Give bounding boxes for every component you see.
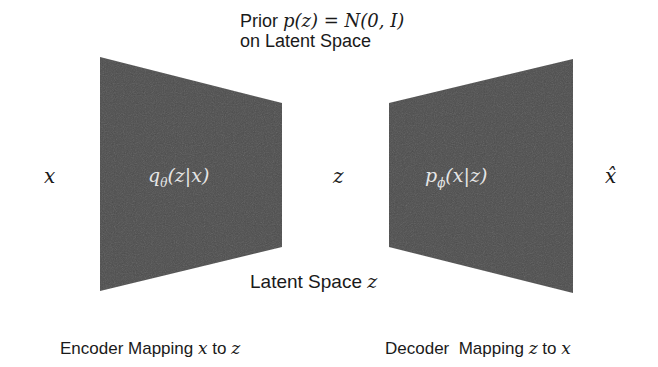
encoder-caption-mid: to — [208, 339, 232, 358]
encoder-formula-q: q — [148, 164, 160, 186]
encoder-formula: qθ(z|x) — [148, 164, 209, 190]
encoder-caption-var2: z — [231, 338, 240, 358]
encoder-caption-text: Encoder Mapping — [60, 339, 198, 358]
encoder-formula-rest: (z|x) — [167, 164, 209, 186]
vae-diagram — [0, 0, 658, 367]
prior-formula: p(z) = N(0, I) — [283, 10, 404, 31]
latent-space-var: z — [367, 270, 377, 292]
latent-symbol: z — [333, 164, 344, 188]
decoder-caption-var1: z — [529, 338, 538, 358]
encoder-caption: Encoder Mapping x to z — [60, 338, 240, 359]
output-symbol: x̂ — [605, 164, 616, 188]
decoder-formula-p: p — [425, 164, 437, 186]
latent-space-label: Latent Space z — [250, 270, 377, 293]
decoder-caption-mid: to — [538, 339, 562, 358]
decoder-caption-text: Decoder Mapping — [385, 339, 529, 358]
input-symbol: x — [44, 164, 55, 188]
prior-line2: on Latent Space — [240, 31, 404, 51]
encoder-caption-var1: x — [198, 338, 208, 358]
decoder-caption-var2: x — [561, 338, 571, 358]
decoder-formula-rest: (x|z) — [445, 164, 487, 186]
prior-label: Prior p(z) = N(0, I) on Latent Space — [240, 11, 404, 51]
prior-text: Prior — [240, 11, 283, 31]
decoder-caption: Decoder Mapping z to x — [385, 338, 571, 359]
latent-space-text: Latent Space — [250, 271, 367, 292]
decoder-formula: pϕ(x|z) — [425, 164, 487, 190]
